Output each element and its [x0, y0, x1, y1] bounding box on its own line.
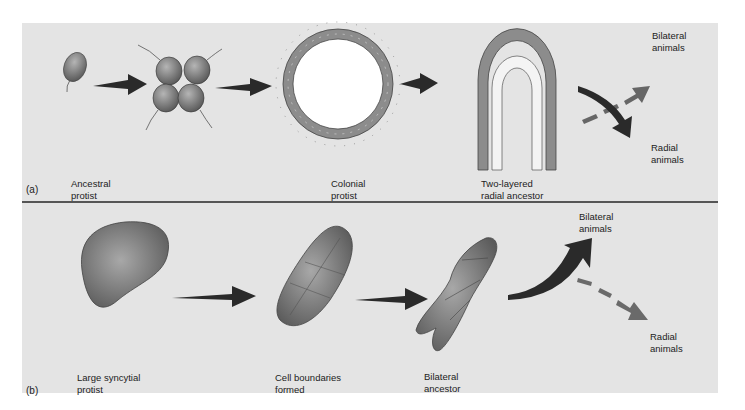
label-large-syncytial-protist: Large syncytial protist	[77, 372, 140, 395]
two-layered-radial-ancestor-icon	[478, 29, 556, 170]
diagram-artwork	[0, 0, 745, 410]
arrow-icon	[400, 73, 438, 94]
part-label-a: (a)	[26, 184, 38, 195]
cell-boundaries-formed-icon	[277, 226, 352, 326]
label-bilateral-animals-a: Bilateral animals	[652, 30, 686, 53]
four-cell-colony-icon	[138, 45, 222, 130]
label-bilateral-ancestor: Bilateral ancestor	[424, 371, 460, 394]
label-ancestral-protist: Ancestral protist	[71, 178, 111, 201]
label-cell-boundaries-formed: Cell boundaries formed	[275, 372, 341, 395]
bilateral-ancestor-icon	[416, 238, 497, 351]
solid-arrow-to-bilateral-icon	[508, 238, 592, 300]
arrow-icon	[172, 286, 256, 307]
syncytial-protist-icon	[81, 222, 168, 307]
ancestral-protist-icon	[60, 49, 91, 92]
arrow-icon	[355, 288, 428, 310]
label-colonial-protist: Colonial protist	[331, 178, 365, 201]
arrow-icon	[93, 74, 147, 95]
part-label-b: (b)	[26, 385, 38, 396]
label-radial-animals-b: Radial animals	[650, 331, 683, 354]
arrow-icon	[215, 78, 272, 96]
label-radial-animals-a: Radial animals	[651, 142, 684, 165]
dashed-arrow-to-radial-icon	[577, 278, 648, 320]
label-two-layered-radial-ancestor: Two-layered radial ancestor	[481, 178, 543, 201]
label-bilateral-animals-b: Bilateral animals	[579, 211, 613, 234]
colonial-protist-icon	[276, 22, 400, 146]
